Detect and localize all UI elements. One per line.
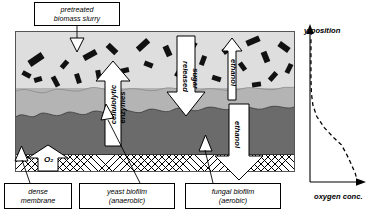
callout-yeast-biofilm: yeast biofilm (anaerobic)	[79, 183, 175, 209]
callout-line: biomass slurry	[54, 14, 100, 23]
callout-line: membrane	[21, 196, 55, 205]
bioreactor-schematic: cellulolytic enzymes released sugar etha…	[0, 0, 370, 218]
callout-line: dense	[28, 187, 48, 196]
callout-dense-membrane: dense membrane	[4, 183, 72, 209]
callout-line: yeast biofilm	[107, 187, 147, 196]
callout-line: pretreated	[61, 5, 94, 14]
callout-pretreated-biomass-slurry: pretreated biomass slurry	[34, 2, 120, 26]
callout-fungal-biofilm: fungal biofilm (aerobic)	[185, 183, 281, 209]
callout-line: (aerobic)	[219, 196, 247, 205]
callout-line: (anaerobic)	[109, 196, 145, 205]
callout-line: fungal biofilm	[212, 187, 254, 196]
